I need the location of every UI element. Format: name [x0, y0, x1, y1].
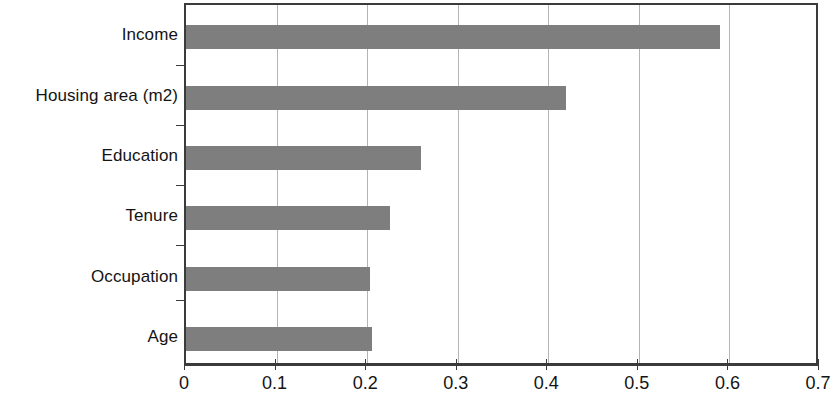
y-axis-label-housing-area: Housing area (m2)	[0, 87, 178, 104]
bar	[186, 25, 720, 49]
bar	[186, 327, 372, 351]
x-axis-tick	[546, 359, 547, 370]
x-axis-tick	[727, 359, 728, 370]
x-axis-line	[184, 364, 818, 366]
y-axis-label-tenure: Tenure	[0, 207, 178, 224]
gridline	[729, 5, 730, 363]
y-axis-label-age: Age	[0, 328, 178, 345]
plot-area	[184, 3, 818, 365]
x-axis-tick-label: 0.5	[624, 373, 649, 393]
x-axis-tick-label: 0.1	[262, 373, 287, 393]
x-axis-tick-label: 0.6	[715, 373, 740, 393]
x-axis-tick	[818, 359, 819, 370]
bar	[186, 86, 566, 110]
bar	[186, 267, 370, 291]
x-axis-tick-label: 0.2	[353, 373, 378, 393]
bar	[186, 146, 421, 170]
x-axis-tick	[456, 359, 457, 370]
y-axis-label-income: Income	[0, 26, 178, 43]
y-axis-category-labels: Income Housing area (m2) Education Tenur…	[0, 0, 178, 404]
x-axis-tick-label: 0.3	[443, 373, 468, 393]
gridline	[458, 5, 459, 363]
x-axis-tick	[365, 359, 366, 370]
y-axis-label-occupation: Occupation	[0, 268, 178, 285]
y-axis-label-education: Education	[0, 147, 178, 164]
gridline	[548, 5, 549, 363]
x-axis-tick	[275, 359, 276, 370]
bar-chart: Income Housing area (m2) Education Tenur…	[0, 0, 839, 404]
gridline	[639, 5, 640, 363]
x-axis-tick-label: 0.4	[534, 373, 559, 393]
x-axis-tick	[184, 359, 185, 370]
gridline	[277, 5, 278, 363]
x-axis-tick-label: 0	[179, 373, 189, 393]
bar	[186, 206, 390, 230]
x-axis-tick	[637, 359, 638, 370]
x-axis-tick-label: 0.7	[805, 373, 830, 393]
gridline	[367, 5, 368, 363]
